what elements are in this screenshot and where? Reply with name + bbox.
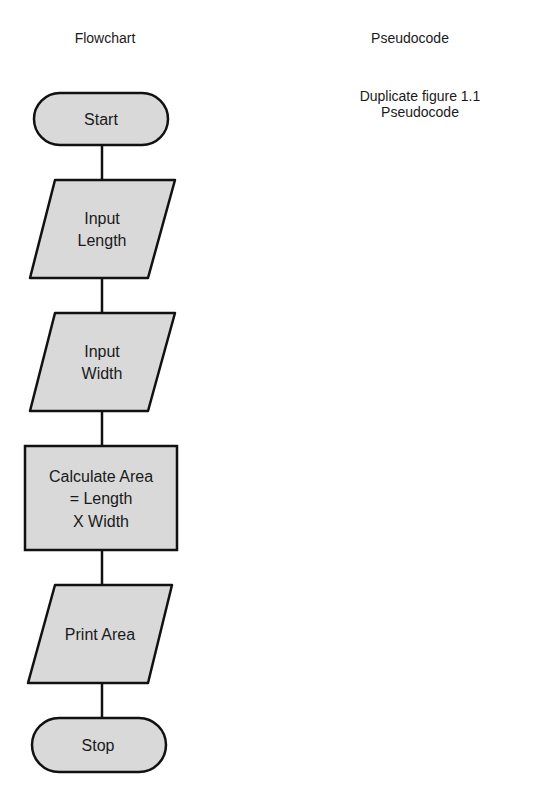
node-input-width-line2: Width — [82, 365, 123, 382]
node-input-width: Input Width — [30, 313, 175, 411]
node-calculate-area-line2: = Length — [70, 490, 133, 507]
node-input-length: Input Length — [30, 180, 175, 278]
node-input-length-line2: Length — [78, 232, 127, 249]
node-calculate-area-line1: Calculate Area — [49, 468, 153, 485]
flowchart-diagram: Start Input Length Input Width Calculate… — [0, 0, 559, 808]
node-input-width-line1: Input — [84, 343, 120, 360]
node-stop: Stop — [32, 718, 166, 772]
node-print-area-label: Print Area — [65, 626, 135, 643]
node-print-area: Print Area — [28, 585, 172, 683]
node-start-label: Start — [84, 111, 118, 128]
node-calculate-area: Calculate Area = Length X Width — [25, 446, 177, 550]
io-parallelogram-shape — [30, 180, 175, 278]
node-calculate-area-line3: X Width — [73, 513, 129, 530]
node-input-length-line1: Input — [84, 210, 120, 227]
node-stop-label: Stop — [82, 737, 115, 754]
io-parallelogram-shape — [30, 313, 175, 411]
node-start: Start — [34, 93, 168, 145]
